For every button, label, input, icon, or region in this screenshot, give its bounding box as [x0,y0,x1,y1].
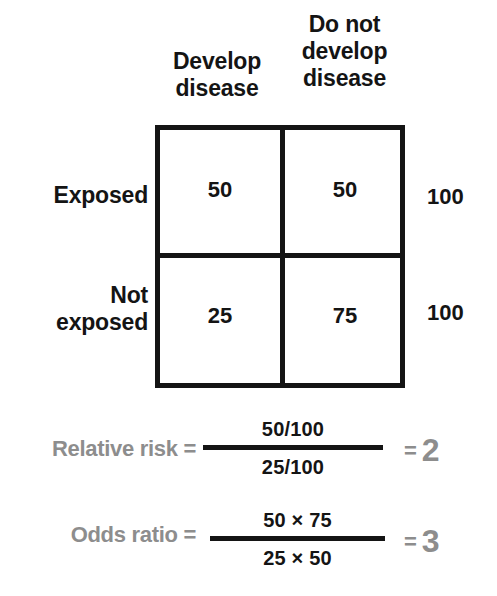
contingency-table: 50 50 25 75 [155,125,405,388]
column-header-line: Develop [152,48,282,75]
table-cell-exposed-develop: 50 [160,177,280,203]
odds-ratio-label: Odds ratio = [0,522,196,548]
column-header-do-not-develop-disease: Do not develop disease [282,11,407,92]
row-header-line: Not [8,282,148,309]
table-horizontal-divider [160,253,400,258]
column-header-line: disease [152,75,282,102]
odds-ratio-value: 3 [422,523,440,559]
column-header-line: develop [282,38,407,65]
table-cell-not-exposed-not-develop: 75 [285,303,405,329]
relative-risk-equals-sign: = [404,438,417,463]
row-header-exposed: Exposed [8,182,148,209]
row-header-line: exposed [8,309,148,336]
odds-ratio-numerator: 50 × 75 [210,509,385,536]
table-cell-not-exposed-develop: 25 [160,303,280,329]
row-total-not-exposed: 100 [427,300,497,326]
relative-risk-label: Relative risk = [0,436,196,462]
column-header-line: disease [282,65,407,92]
relative-risk-fraction: 50/100 25/100 [203,418,383,479]
table-cell-exposed-not-develop: 50 [285,177,405,203]
odds-ratio-fraction: 50 × 75 25 × 50 [210,509,385,570]
row-total-exposed: 100 [427,184,497,210]
odds-ratio-equals-sign: = [404,529,417,554]
row-header-not-exposed: Not exposed [8,282,148,336]
column-header-line: Do not [282,11,407,38]
odds-ratio-denominator: 25 × 50 [210,541,385,570]
odds-ratio-result: =3 [404,523,440,560]
relative-risk-denominator: 25/100 [203,450,383,479]
relative-risk-value: 2 [422,432,440,468]
row-header-line: Exposed [8,182,148,209]
relative-risk-numerator: 50/100 [203,418,383,445]
relative-risk-result: =2 [404,432,440,469]
column-header-develop-disease: Develop disease [152,48,282,102]
